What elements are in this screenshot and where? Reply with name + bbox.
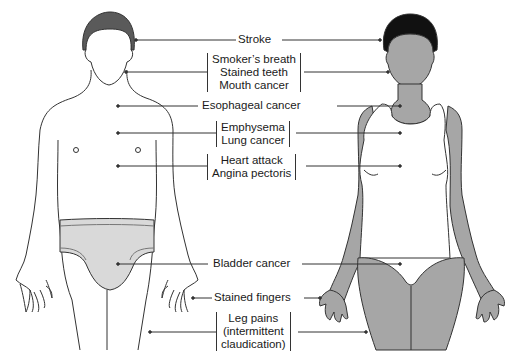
label-intermittent: (intermittent	[221, 325, 286, 338]
label-heart-attack: Heart attack	[212, 154, 291, 167]
label-fingers: Stained fingers	[214, 291, 291, 304]
male-underwear	[60, 219, 154, 291]
male-head	[85, 29, 133, 85]
label-smokers-breath: Smoker’s breath	[212, 53, 296, 66]
label-stained-fingers: Stained fingers	[214, 291, 291, 304]
label-heart-group: Heart attack Angina pectoris	[207, 154, 296, 180]
male-left-hand	[16, 280, 52, 312]
female-tank-top	[360, 104, 450, 258]
label-emphysema: Emphysema	[221, 121, 285, 134]
male-right-hand	[162, 280, 198, 312]
label-lung-group: Emphysema Lung cancer	[216, 121, 290, 147]
female-neck	[391, 84, 430, 124]
label-legs-group: Leg pains (intermittent claudication)	[216, 312, 291, 351]
label-angina-pectoris: Angina pectoris	[212, 167, 291, 180]
label-claudication: claudication)	[221, 338, 286, 351]
label-stained-teeth: Stained teeth	[212, 66, 296, 79]
label-mouth-cancer: Mouth cancer	[212, 79, 296, 92]
female-figure	[319, 14, 504, 350]
label-esophageal: Esophageal cancer	[202, 99, 300, 112]
label-mouth-group: Smoker’s breath Stained teeth Mouth canc…	[207, 53, 301, 92]
male-nipple-right	[136, 148, 141, 153]
label-lung-cancer: Lung cancer	[221, 134, 285, 147]
label-leg-pains: Leg pains	[221, 312, 286, 325]
male-figure	[16, 12, 198, 350]
female-head	[386, 34, 434, 88]
label-stroke-line: Stroke	[238, 33, 271, 46]
label-bladder: Bladder cancer	[213, 257, 290, 270]
label-esophageal-cancer: Esophageal cancer	[202, 99, 300, 112]
label-stroke: Stroke	[238, 33, 271, 46]
male-nipple-left	[74, 148, 79, 153]
label-bladder-cancer: Bladder cancer	[213, 257, 290, 270]
